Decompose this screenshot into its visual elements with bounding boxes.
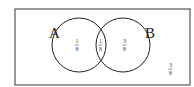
svg-text:8: 8 (76, 46, 79, 52)
region-intersection-fraction: 1 8 (99, 38, 103, 52)
svg-text:8: 8 (123, 46, 126, 52)
set-b-label: B (145, 25, 155, 41)
region-outside-fraction: 3 8 (169, 62, 173, 76)
region-a-only-fraction: 1 8 (75, 38, 79, 52)
venn-diagram: A B 1 8 1 8 3 8 3 8 (0, 0, 194, 87)
universal-set-rectangle (15, 9, 190, 85)
svg-text:3: 3 (169, 62, 172, 68)
svg-text:1: 1 (76, 38, 79, 44)
svg-text:8: 8 (169, 70, 172, 76)
set-a-label: A (49, 25, 60, 41)
region-b-only-fraction: 3 8 (123, 38, 127, 52)
svg-text:1: 1 (99, 38, 102, 44)
svg-text:3: 3 (123, 38, 126, 44)
svg-text:8: 8 (99, 46, 102, 52)
